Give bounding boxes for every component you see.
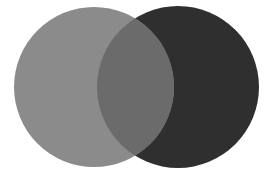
venn-diagram [0,0,275,179]
